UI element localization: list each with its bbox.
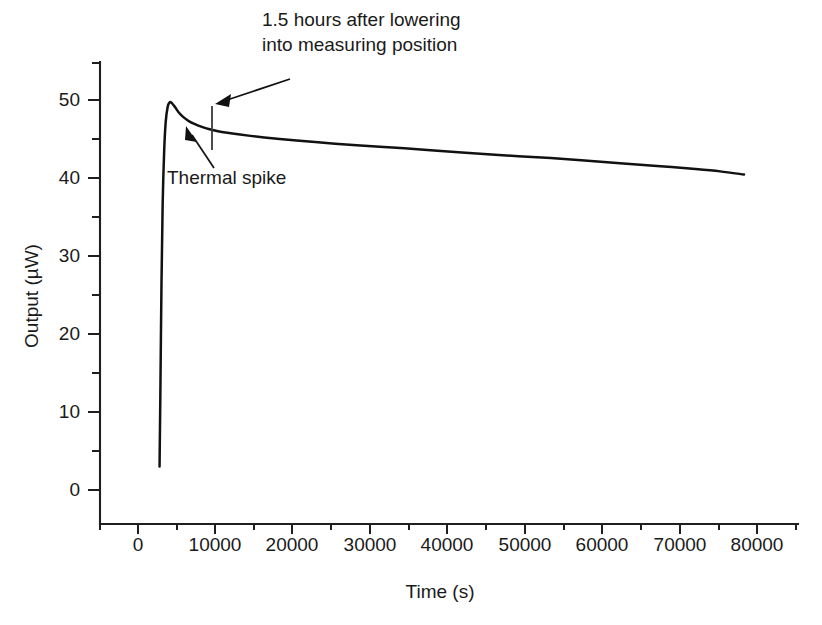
y-tick-marks xyxy=(88,63,100,490)
y-tick-label-20: 20 xyxy=(48,323,80,345)
y-axis-title: Output (µW) xyxy=(21,244,43,348)
y-tick-label-40: 40 xyxy=(48,167,80,189)
x-tick-marks xyxy=(100,524,796,534)
x-tick-label-10000: 10000 xyxy=(189,534,242,556)
plot-svg xyxy=(0,0,822,625)
x-tick-label-70000: 70000 xyxy=(654,534,707,556)
x-tick-label-60000: 60000 xyxy=(576,534,629,556)
lowering-annotation-line2: into measuring position xyxy=(262,32,461,57)
axes-group xyxy=(100,62,798,524)
x-axis-title: Time (s) xyxy=(406,581,475,603)
y-tick-label-10: 10 xyxy=(48,401,80,423)
figure-container: 0 10000 20000 30000 40000 50000 60000 70… xyxy=(0,0,822,625)
y-tick-label-30: 30 xyxy=(48,245,80,267)
thermal-spike-annotation-text: Thermal spike xyxy=(167,165,286,190)
lowering-annotation-text: 1.5 hours after lowering into measuring … xyxy=(262,7,461,58)
y-tick-label-50: 50 xyxy=(48,89,80,111)
lowering-annotation-line1: 1.5 hours after lowering xyxy=(262,7,461,32)
output-vs-time-curve xyxy=(160,102,744,467)
x-tick-label-40000: 40000 xyxy=(421,534,474,556)
y-tick-label-0: 0 xyxy=(48,479,80,501)
lowering-annotation-arrow xyxy=(215,79,290,107)
x-tick-label-20000: 20000 xyxy=(266,534,319,556)
x-tick-label-0: 0 xyxy=(133,534,144,556)
x-tick-label-80000: 80000 xyxy=(731,534,784,556)
thermal-spike-annotation-arrow xyxy=(185,126,214,168)
x-tick-label-50000: 50000 xyxy=(499,534,552,556)
x-tick-label-30000: 30000 xyxy=(344,534,397,556)
